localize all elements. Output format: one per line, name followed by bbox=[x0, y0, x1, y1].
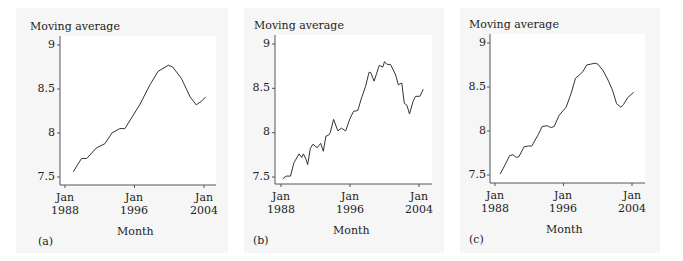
x-tick-year: 2004 bbox=[612, 202, 652, 215]
x-tick-month: Jan bbox=[543, 189, 583, 202]
x-tick-year: 2004 bbox=[399, 203, 439, 216]
x-tick-year: 1988 bbox=[475, 202, 515, 215]
y-axis-label: Moving average bbox=[30, 21, 120, 33]
y-tick-label: 8.5 bbox=[244, 82, 270, 94]
x-tick-label: Jan2004 bbox=[399, 190, 439, 216]
x-tick-year: 1988 bbox=[261, 203, 301, 216]
y-tick-label: 9 bbox=[460, 37, 486, 49]
y-tick-label: 8.5 bbox=[29, 83, 55, 95]
y-tick-label: 8.5 bbox=[460, 81, 486, 93]
chart-c-plot bbox=[460, 8, 660, 253]
chart-b-plot bbox=[244, 8, 444, 253]
x-tick-label: Jan2004 bbox=[612, 189, 652, 215]
x-tick-month: Jan bbox=[612, 189, 652, 202]
y-axis-label: Moving average bbox=[254, 20, 344, 32]
y-tick-label: 9 bbox=[29, 39, 55, 51]
x-tick-label: Jan1988 bbox=[475, 189, 515, 215]
x-axis-label: Month bbox=[117, 226, 153, 238]
x-tick-label: Jan1996 bbox=[543, 189, 583, 215]
x-tick-label: Jan1988 bbox=[261, 190, 301, 216]
y-tick-label: 8 bbox=[460, 125, 486, 137]
x-axis-label: Month bbox=[546, 224, 582, 236]
chart-panel-b: Moving average 9 8.5 8 7.5 Jan1988 Jan19… bbox=[244, 8, 444, 253]
y-tick-label: 8 bbox=[244, 126, 270, 138]
y-tick-label: 7.5 bbox=[29, 171, 55, 183]
y-tick-label: 9 bbox=[244, 38, 270, 50]
x-tick-month: Jan bbox=[261, 190, 301, 203]
x-tick-label: Jan1988 bbox=[45, 191, 85, 217]
x-tick-month: Jan bbox=[330, 190, 370, 203]
y-tick-label: 8 bbox=[29, 127, 55, 139]
x-tick-year: 1996 bbox=[543, 202, 583, 215]
x-tick-year: 1988 bbox=[45, 204, 85, 217]
x-axis-label: Month bbox=[333, 225, 369, 237]
chart-panel-c: Moving average 9 8.5 8 7.5 Jan1988 Jan19… bbox=[460, 8, 660, 253]
x-tick-label: Jan2004 bbox=[184, 191, 224, 217]
panel-label: (c) bbox=[469, 234, 484, 246]
x-tick-month: Jan bbox=[114, 191, 154, 204]
y-tick-label: 7.5 bbox=[244, 171, 270, 183]
panel-label: (a) bbox=[38, 236, 53, 248]
x-tick-month: Jan bbox=[45, 191, 85, 204]
x-tick-year: 2004 bbox=[184, 204, 224, 217]
panel-label: (b) bbox=[253, 235, 269, 247]
x-tick-month: Jan bbox=[399, 190, 439, 203]
chart-panel-a: Moving average 9 8.5 8 7.5 Jan1988 Jan19… bbox=[16, 8, 228, 253]
x-tick-label: Jan1996 bbox=[114, 191, 154, 217]
x-tick-month: Jan bbox=[475, 189, 515, 202]
y-axis-label: Moving average bbox=[469, 19, 559, 31]
x-tick-label: Jan1996 bbox=[330, 190, 370, 216]
y-tick-label: 7.5 bbox=[460, 169, 486, 181]
x-tick-year: 1996 bbox=[330, 203, 370, 216]
x-tick-month: Jan bbox=[184, 191, 224, 204]
x-tick-year: 1996 bbox=[114, 204, 154, 217]
